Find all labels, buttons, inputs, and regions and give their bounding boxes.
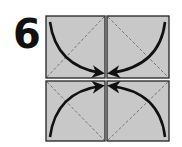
square-top-left bbox=[46, 16, 105, 78]
square-bottom-left bbox=[46, 81, 105, 141]
square-bottom-right bbox=[107, 81, 169, 141]
origami-diagram bbox=[0, 0, 182, 147]
square-top-right bbox=[107, 16, 169, 78]
